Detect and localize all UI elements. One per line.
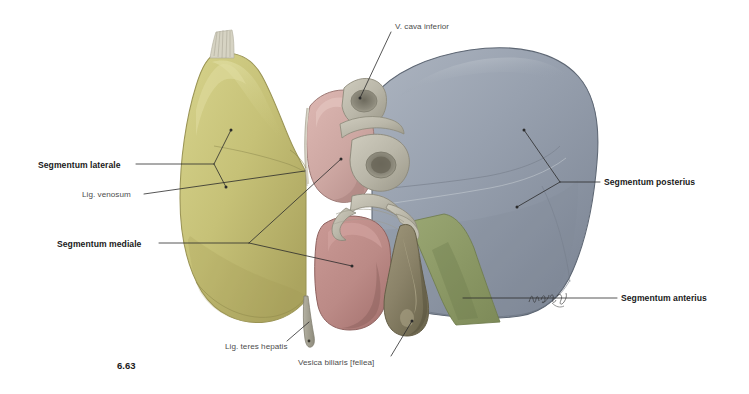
label-lig-teres-hepatis: Lig. teres hepatis <box>225 343 288 351</box>
vena-cava-inferior-lumen-inner <box>371 157 391 174</box>
label-lig-venosum: Lig. venosum <box>82 191 131 199</box>
label-vesica-biliaris: Vesica biliaris [fellea] <box>298 359 374 367</box>
endpoint-vesica-biliaris <box>411 320 414 323</box>
label-segmentum-anterius: Segmentum anterius <box>621 294 707 303</box>
quadrate-lobe-group <box>315 216 391 330</box>
endpoint-mediale-hilum <box>340 158 343 161</box>
label-segmentum-posterius: Segmentum posterius <box>604 178 695 187</box>
endpoint-posterius-upper <box>523 129 526 132</box>
label-vena-cava-inferior: V. cava inferior <box>395 23 449 31</box>
endpoint-posterius-lower <box>516 206 519 209</box>
label-segmentum-laterale: Segmentum laterale <box>38 161 121 170</box>
label-segmentum-mediale: Segmentum mediale <box>57 240 141 249</box>
figure-number: 6.63 <box>117 361 136 371</box>
gallbladder-fundus-gloss <box>400 309 414 327</box>
endpoint-mediale-quadrate <box>351 265 354 268</box>
vena-cava-superior-lumen <box>351 90 377 112</box>
endpoint-laterale-upper <box>230 129 233 132</box>
endpoint-laterale-lower <box>225 186 228 189</box>
endpoint-vena-cava <box>359 97 362 100</box>
lig-teres-tip <box>308 340 311 343</box>
